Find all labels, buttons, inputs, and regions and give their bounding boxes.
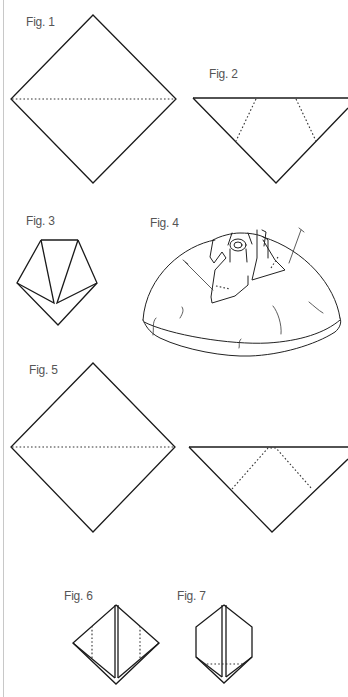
- fig5-triangle-drawing: [189, 447, 348, 532]
- fig3-pentagon-drawing: [17, 240, 97, 325]
- fig2-triangle-drawing: [193, 98, 348, 183]
- fig1-diamond-drawing: [11, 15, 176, 183]
- fig6-diamond-drawing: [73, 605, 159, 684]
- fig7-hexagon-drawing: [196, 605, 252, 683]
- fig5-diamond-drawing: [11, 363, 175, 532]
- diagram-canvas: [0, 0, 348, 697]
- instruction-diagram-page: Fig. 1 Fig. 2 Fig. 3 Fig. 4 Fig. 5 Fig. …: [0, 0, 348, 697]
- fig4-dome-rose-sketch: [143, 228, 341, 356]
